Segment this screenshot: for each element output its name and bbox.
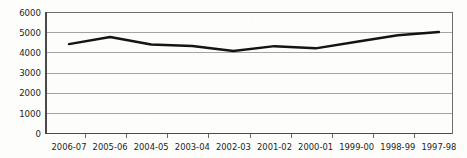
y-tick-label: 0 — [36, 129, 41, 139]
x-axis-tick-labels: 2006-07 2005-06 2004-05 2003-04 2002-03 … — [52, 142, 457, 152]
horizontal-gridlines — [46, 33, 452, 114]
x-tick-label: 1998-99 — [380, 142, 415, 152]
x-axis-tickmarks — [86, 134, 415, 139]
x-tick-label: 2005-06 — [93, 142, 128, 152]
y-tick-label: 1000 — [19, 109, 41, 119]
x-tick-label: 2003-04 — [175, 142, 210, 152]
y-axis-tick-labels: 6000 5000 4000 3000 2000 1000 0 — [19, 8, 41, 139]
y-tick-label: 5000 — [19, 28, 41, 38]
x-tick-label: 1999-00 — [339, 142, 374, 152]
line-chart-figure: 6000 5000 4000 3000 2000 1000 0 — [0, 0, 467, 158]
x-tick-label: 2000-01 — [298, 142, 333, 152]
chart-plot-svg: 6000 5000 4000 3000 2000 1000 0 — [0, 0, 467, 158]
x-tick-label: 2006-07 — [52, 142, 87, 152]
x-tick-label: 2004-05 — [134, 142, 169, 152]
x-tick-label: 2001-02 — [257, 142, 292, 152]
y-tick-label: 6000 — [19, 8, 41, 18]
x-tick-label: 2002-03 — [216, 142, 251, 152]
y-tick-label: 4000 — [19, 48, 41, 58]
y-tick-label: 3000 — [19, 68, 41, 78]
data-series-line — [69, 32, 439, 51]
x-tick-label: 1997-98 — [421, 142, 456, 152]
y-tick-label: 2000 — [19, 88, 41, 98]
